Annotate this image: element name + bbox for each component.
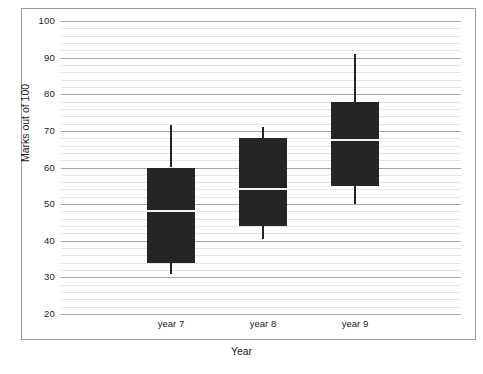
box-iqr-rect	[331, 102, 379, 186]
y-axis-title: Marks out of 100	[19, 53, 31, 193]
upper-whisker	[354, 54, 356, 102]
gridline-major	[61, 314, 461, 315]
median-line	[147, 210, 195, 212]
plot-area	[61, 21, 461, 314]
y-axis-tick-label: 100	[21, 16, 55, 26]
box-plot-figure: 2030405060708090100 Marks out of 100 yea…	[0, 0, 483, 374]
y-axis-tick-label: 30	[21, 273, 55, 283]
median-line	[331, 139, 379, 141]
box-iqr-rect	[147, 168, 195, 263]
box-iqr-rect	[239, 138, 287, 226]
lower-whisker	[354, 186, 356, 204]
y-axis-tick-label: 50	[21, 199, 55, 209]
x-axis-tick-labels: year 7year 8year 9	[61, 318, 461, 336]
upper-whisker	[262, 127, 264, 138]
x-axis-title: Year	[0, 345, 483, 357]
median-line	[239, 188, 287, 190]
lower-whisker	[262, 226, 264, 239]
y-axis-tick-label: 20	[21, 309, 55, 319]
x-axis-tick-label: year 9	[295, 318, 415, 329]
box-plot-item	[331, 21, 379, 314]
box-plot-item	[239, 21, 287, 314]
upper-whisker	[170, 125, 172, 167]
box-plot-item	[147, 21, 195, 314]
lower-whisker	[170, 263, 172, 274]
y-axis-tick-label: 40	[21, 236, 55, 246]
